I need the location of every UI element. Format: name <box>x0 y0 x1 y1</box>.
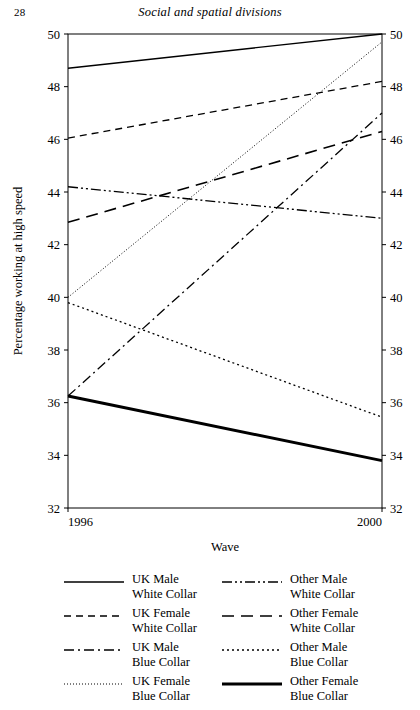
chart-axes <box>68 34 382 508</box>
book-page: 28 Social and spatial divisions 32343638… <box>0 0 420 710</box>
series-line <box>68 113 382 396</box>
legend-label: UK FemaleWhite Collar <box>132 606 197 636</box>
legend-label: Other MaleWhite Collar <box>290 572 355 602</box>
svg-text:50: 50 <box>390 28 403 42</box>
legend-item: Other MaleBlue Collar <box>220 640 392 672</box>
svg-text:44: 44 <box>390 186 403 200</box>
series-line <box>68 396 382 461</box>
legend-label: Other FemaleBlue Collar <box>290 674 358 704</box>
legend-item: Other FemaleBlue Collar <box>220 674 392 706</box>
chart-legend: UK MaleWhite CollarOther MaleWhite Colla… <box>62 572 392 706</box>
series-line <box>68 42 382 297</box>
svg-text:36: 36 <box>390 396 403 410</box>
legend-item: UK FemaleWhite Collar <box>62 606 220 638</box>
legend-label: Other FemaleWhite Collar <box>290 606 358 636</box>
y-axis-ticks-left: 32343638404244464850 <box>48 28 69 516</box>
legend-line-swatch <box>220 677 284 693</box>
svg-text:42: 42 <box>48 238 61 252</box>
svg-text:38: 38 <box>390 344 403 358</box>
series-line <box>68 131 382 222</box>
y-axis-ticks-right: 32343638404244464850 <box>382 28 403 516</box>
legend-line-swatch <box>62 677 126 693</box>
legend-line-swatch <box>220 643 284 659</box>
svg-text:1996: 1996 <box>68 515 93 529</box>
legend-label: UK FemaleBlue Collar <box>132 674 190 704</box>
svg-text:34: 34 <box>48 449 61 463</box>
legend-line-swatch <box>62 575 126 591</box>
svg-text:48: 48 <box>48 80 61 94</box>
legend-line-swatch <box>220 575 284 591</box>
series-line <box>68 81 382 138</box>
svg-text:32: 32 <box>390 502 403 516</box>
legend-item: Other FemaleWhite Collar <box>220 606 392 638</box>
series-line <box>68 187 382 219</box>
chart-series-group <box>68 34 382 461</box>
legend-item: UK FemaleBlue Collar <box>62 674 220 706</box>
svg-text:36: 36 <box>48 396 61 410</box>
legend-line-swatch <box>220 609 284 625</box>
series-line <box>68 303 382 418</box>
svg-text:2000: 2000 <box>357 515 382 529</box>
svg-text:50: 50 <box>48 28 61 42</box>
svg-text:46: 46 <box>390 133 403 147</box>
line-chart: 32343638404244464850 3234363840424446485… <box>0 0 420 560</box>
svg-text:40: 40 <box>390 291 403 305</box>
legend-line-swatch <box>62 609 126 625</box>
legend-label: UK MaleBlue Collar <box>132 640 190 670</box>
svg-text:34: 34 <box>390 449 403 463</box>
legend-label: Other MaleBlue Collar <box>290 640 348 670</box>
svg-text:42: 42 <box>390 238 403 252</box>
svg-text:40: 40 <box>48 291 61 305</box>
svg-text:46: 46 <box>48 133 61 147</box>
x-axis-ticks: 19962000 <box>68 508 382 529</box>
svg-text:38: 38 <box>48 344 61 358</box>
svg-text:48: 48 <box>390 80 403 94</box>
legend-item: UK MaleBlue Collar <box>62 640 220 672</box>
legend-item: Other MaleWhite Collar <box>220 572 392 604</box>
x-axis-label: Wave <box>211 540 240 554</box>
legend-label: UK MaleWhite Collar <box>132 572 197 602</box>
legend-line-swatch <box>62 643 126 659</box>
series-line <box>68 34 382 68</box>
svg-text:44: 44 <box>48 186 61 200</box>
legend-item: UK MaleWhite Collar <box>62 572 220 604</box>
y-axis-label: Percentage working at high speed <box>11 186 25 355</box>
svg-text:32: 32 <box>48 502 61 516</box>
figure-container: 32343638404244464850 3234363840424446485… <box>0 0 420 710</box>
